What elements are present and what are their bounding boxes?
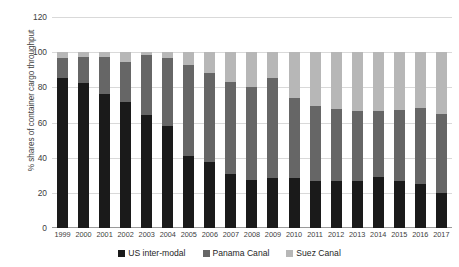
bar-segment-panama-canal[interactable] bbox=[225, 82, 236, 173]
stacked-bar-chart: % shares of container cargo throughput 0… bbox=[0, 0, 459, 267]
x-tick-label-text: 2010 bbox=[286, 230, 302, 239]
bar-segment-suez-canal[interactable] bbox=[415, 52, 426, 108]
bar-segment-suez-canal[interactable] bbox=[204, 52, 215, 73]
x-tick-label-text: 2000 bbox=[75, 230, 91, 239]
bar-segment-us-inter-modal[interactable] bbox=[141, 115, 152, 228]
bar-segment-us-inter-modal[interactable] bbox=[331, 181, 342, 228]
y-tick-label: 60 bbox=[38, 118, 47, 128]
bar-segment-panama-canal[interactable] bbox=[310, 106, 321, 181]
bar-segment-suez-canal[interactable] bbox=[225, 52, 236, 82]
bar-segment-suez-canal[interactable] bbox=[394, 52, 405, 110]
bar-segment-panama-canal[interactable] bbox=[183, 65, 194, 156]
legend-swatch-icon bbox=[203, 250, 210, 257]
x-tick-label-text: 2003 bbox=[139, 230, 155, 239]
bar-segment-panama-canal[interactable] bbox=[436, 114, 447, 193]
legend-item[interactable]: US inter-modal bbox=[118, 248, 185, 258]
bar-segment-us-inter-modal[interactable] bbox=[436, 193, 447, 228]
x-tick-label-text: 2011 bbox=[307, 230, 323, 239]
bar-segment-us-inter-modal[interactable] bbox=[120, 102, 131, 228]
x-tick-label-text: 2001 bbox=[96, 230, 112, 239]
bar-segment-us-inter-modal[interactable] bbox=[310, 181, 321, 228]
bar-column[interactable] bbox=[267, 17, 278, 228]
bar-column[interactable] bbox=[352, 17, 363, 228]
bar-segment-suez-canal[interactable] bbox=[183, 52, 194, 64]
x-tick-label-text: 2004 bbox=[160, 230, 176, 239]
x-tick-label-text: 2013 bbox=[349, 230, 365, 239]
bar-segment-us-inter-modal[interactable] bbox=[78, 83, 89, 228]
bar-segment-us-inter-modal[interactable] bbox=[246, 180, 257, 228]
y-axis-tick-labels: 020406080100120 bbox=[0, 0, 52, 267]
bar-segment-panama-canal[interactable] bbox=[141, 55, 152, 116]
bar-column[interactable] bbox=[57, 17, 68, 228]
x-tick-label-text: 2006 bbox=[202, 230, 218, 239]
bar-segment-us-inter-modal[interactable] bbox=[352, 181, 363, 228]
bar-segment-us-inter-modal[interactable] bbox=[99, 94, 110, 229]
bar-segment-panama-canal[interactable] bbox=[373, 111, 384, 177]
bar-column[interactable] bbox=[394, 17, 405, 228]
x-tick-label-text: 2008 bbox=[244, 230, 260, 239]
bar-column[interactable] bbox=[246, 17, 257, 228]
bar-segment-panama-canal[interactable] bbox=[267, 78, 278, 178]
bar-segment-us-inter-modal[interactable] bbox=[204, 162, 215, 228]
bar-segment-us-inter-modal[interactable] bbox=[225, 174, 236, 229]
bar-segment-panama-canal[interactable] bbox=[289, 98, 300, 178]
legend-item[interactable]: Suez Canal bbox=[286, 248, 340, 258]
bar-segment-panama-canal[interactable] bbox=[394, 110, 405, 181]
legend-swatch-icon bbox=[286, 250, 293, 257]
bar-segment-us-inter-modal[interactable] bbox=[183, 156, 194, 228]
bar-column[interactable] bbox=[436, 17, 447, 228]
bar-series-group bbox=[52, 17, 452, 228]
bar-segment-suez-canal[interactable] bbox=[289, 52, 300, 98]
bar-column[interactable] bbox=[99, 17, 110, 228]
x-tick-label-text: 2017 bbox=[433, 230, 449, 239]
bar-segment-panama-canal[interactable] bbox=[120, 62, 131, 102]
x-tick-label-text: 2014 bbox=[370, 230, 386, 239]
bar-column[interactable] bbox=[141, 17, 152, 228]
bar-segment-panama-canal[interactable] bbox=[57, 58, 68, 77]
bar-segment-suez-canal[interactable] bbox=[436, 52, 447, 114]
bar-segment-panama-canal[interactable] bbox=[78, 57, 89, 83]
bar-segment-us-inter-modal[interactable] bbox=[394, 181, 405, 228]
bar-segment-suez-canal[interactable] bbox=[120, 52, 131, 62]
bar-segment-us-inter-modal[interactable] bbox=[267, 178, 278, 228]
bar-segment-us-inter-modal[interactable] bbox=[289, 178, 300, 228]
bar-segment-panama-canal[interactable] bbox=[162, 58, 173, 126]
bar-column[interactable] bbox=[78, 17, 89, 228]
bar-segment-panama-canal[interactable] bbox=[352, 111, 363, 181]
legend-swatch-icon bbox=[118, 250, 125, 257]
plot-area bbox=[52, 17, 452, 228]
bar-column[interactable] bbox=[120, 17, 131, 228]
bar-segment-panama-canal[interactable] bbox=[331, 109, 342, 180]
bar-segment-us-inter-modal[interactable] bbox=[415, 184, 426, 228]
bar-column[interactable] bbox=[415, 17, 426, 228]
bar-segment-us-inter-modal[interactable] bbox=[162, 126, 173, 228]
legend-item[interactable]: Panama Canal bbox=[203, 248, 270, 258]
x-tick-label-text: 1999 bbox=[54, 230, 70, 239]
x-tick-label-text: 2005 bbox=[181, 230, 197, 239]
bar-segment-suez-canal[interactable] bbox=[267, 52, 278, 77]
bar-column[interactable] bbox=[310, 17, 321, 228]
bar-column[interactable] bbox=[162, 17, 173, 228]
bar-column[interactable] bbox=[373, 17, 384, 228]
legend-label: Panama Canal bbox=[213, 248, 270, 258]
y-tick-label: 120 bbox=[33, 12, 47, 22]
bar-segment-panama-canal[interactable] bbox=[204, 73, 215, 162]
bar-segment-us-inter-modal[interactable] bbox=[57, 78, 68, 228]
bar-segment-panama-canal[interactable] bbox=[415, 108, 426, 184]
bar-segment-suez-canal[interactable] bbox=[331, 52, 342, 109]
bar-segment-suez-canal[interactable] bbox=[246, 52, 257, 87]
bar-column[interactable] bbox=[331, 17, 342, 228]
bar-column[interactable] bbox=[183, 17, 194, 228]
y-tick-label: 100 bbox=[33, 47, 47, 57]
bar-column[interactable] bbox=[289, 17, 300, 228]
bar-segment-panama-canal[interactable] bbox=[99, 57, 110, 94]
bar-segment-us-inter-modal[interactable] bbox=[373, 177, 384, 228]
bar-segment-suez-canal[interactable] bbox=[373, 52, 384, 111]
bar-segment-suez-canal[interactable] bbox=[310, 52, 321, 106]
bar-segment-panama-canal[interactable] bbox=[246, 87, 257, 179]
bar-column[interactable] bbox=[204, 17, 215, 228]
x-tick-label-text: 2015 bbox=[391, 230, 407, 239]
bar-column[interactable] bbox=[225, 17, 236, 228]
x-tick-label-text: 2007 bbox=[223, 230, 239, 239]
bar-segment-suez-canal[interactable] bbox=[352, 52, 363, 111]
